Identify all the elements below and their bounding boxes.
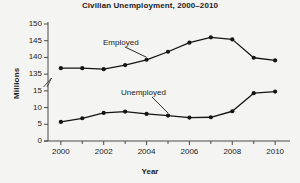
chart-container: Civilian Unemployment, 2000–2010 Million… [0, 0, 300, 183]
data-point-marker [187, 41, 191, 45]
data-point-marker [273, 58, 277, 62]
data-point-marker [252, 91, 256, 95]
data-point-marker [80, 116, 84, 120]
data-point-marker [230, 37, 234, 41]
axis-ticks [44, 24, 275, 145]
data-point-marker [59, 120, 63, 124]
data-point-marker [252, 56, 256, 60]
data-point-marker [80, 66, 84, 70]
data-point-marker [102, 111, 106, 115]
data-point-marker [209, 115, 213, 119]
data-point-marker [144, 58, 148, 62]
leader-line [125, 47, 147, 57]
data-series [59, 35, 277, 124]
data-point-marker [123, 109, 127, 113]
data-point-marker [209, 35, 213, 39]
data-point-marker [59, 66, 63, 70]
data-point-marker [187, 116, 191, 120]
plot-area [0, 0, 300, 183]
data-point-marker [166, 113, 170, 117]
data-point-marker [273, 89, 277, 93]
data-point-marker [144, 112, 148, 116]
data-point-marker [230, 109, 234, 113]
leader-line [152, 97, 168, 113]
data-point-marker [102, 67, 106, 71]
axes [44, 22, 290, 141]
data-point-marker [123, 63, 127, 67]
annotation-leader-lines [125, 47, 168, 113]
data-point-marker [166, 50, 170, 54]
